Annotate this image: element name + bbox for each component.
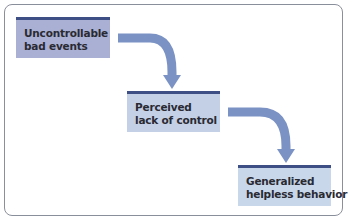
step-2-line-1: Perceived bbox=[135, 101, 212, 114]
step-box-perceived-lack-of-control: Perceived lack of control bbox=[127, 91, 220, 132]
step-1-line-1: Uncontrollable bbox=[24, 27, 102, 40]
arrow-icon-1 bbox=[118, 38, 181, 89]
step-box-generalized-helpless-behavior: Generalized helpless behavior bbox=[238, 165, 331, 206]
step-2-line-2: lack of control bbox=[135, 114, 212, 127]
arrow-icon-2 bbox=[228, 112, 295, 163]
step-3-line-1: Generalized bbox=[246, 175, 323, 188]
step-3-line-2: helpless behavior bbox=[246, 188, 323, 201]
step-box-uncontrollable-bad-events: Uncontrollable bad events bbox=[16, 17, 110, 58]
step-1-line-2: bad events bbox=[24, 40, 102, 53]
